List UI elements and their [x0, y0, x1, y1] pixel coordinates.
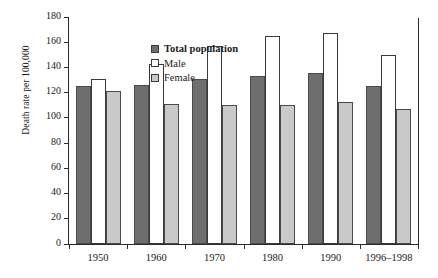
y-axis-tick-label: 0 — [56, 237, 61, 248]
y-axis-tick-label: 140 — [46, 60, 61, 71]
bar-female — [164, 104, 179, 244]
bar-female — [222, 105, 237, 244]
x-axis-tick-mark — [418, 244, 419, 249]
x-axis-tick-mark — [360, 244, 361, 249]
x-axis-tick-mark — [302, 244, 303, 249]
bar-male — [149, 64, 164, 244]
bar-female — [106, 91, 121, 244]
x-axis-tick-mark — [244, 244, 245, 249]
legend-label-total-population: Total population — [164, 43, 238, 54]
bar-group: 1990 — [302, 18, 360, 244]
bar-female — [280, 105, 295, 244]
bar-total — [250, 76, 265, 244]
x-axis-label: 1990 — [320, 252, 341, 263]
y-axis-tick-label: 100 — [46, 110, 61, 121]
bar-male — [91, 79, 106, 244]
x-axis-tick-mark — [69, 244, 70, 249]
y-axis-tick-label: 80 — [51, 136, 61, 147]
legend-swatch-total-population — [151, 45, 159, 53]
bar-male — [265, 36, 280, 244]
y-axis-tick-label: 20 — [51, 211, 61, 222]
bar-group: 1950 — [69, 18, 127, 244]
x-axis-label: 1960 — [146, 252, 167, 263]
bar-group: 1980 — [244, 18, 302, 244]
x-axis-label: 1996–1998 — [365, 252, 412, 263]
legend-item-female: Female — [151, 72, 238, 83]
bar-chart: Death rate per 100,000 02040608010012014… — [0, 0, 438, 278]
bar-total — [308, 73, 323, 245]
bar-group: 1996–1998 — [360, 18, 418, 244]
chart-legend: Total population Male Female — [151, 43, 238, 83]
x-axis-label: 1950 — [88, 252, 109, 263]
legend-swatch-male — [151, 59, 159, 67]
y-axis-tick-label: 160 — [46, 35, 61, 46]
y-axis-title: Death rate per 100,000 — [21, 10, 31, 170]
legend-label-female: Female — [164, 72, 195, 83]
bar-male — [323, 33, 338, 244]
legend-swatch-female — [151, 74, 159, 82]
x-axis-label: 1980 — [262, 252, 283, 263]
x-axis-tick-mark — [185, 244, 186, 249]
x-axis-tick-mark — [127, 244, 128, 249]
bar-total — [76, 86, 91, 244]
x-axis-label: 1970 — [204, 252, 225, 263]
bar-total — [366, 86, 381, 244]
bar-total — [192, 79, 207, 244]
y-axis-tick-label: 180 — [46, 10, 61, 21]
y-axis-tick-label: 120 — [46, 85, 61, 96]
legend-item-total-population: Total population — [151, 43, 238, 54]
y-axis-tick-label: 60 — [51, 161, 61, 172]
y-axis-tick-label: 40 — [51, 186, 61, 197]
bar-male — [381, 55, 396, 244]
bar-female — [396, 109, 411, 244]
bar-total — [134, 85, 149, 244]
bar-female — [338, 102, 353, 245]
legend-item-male: Male — [151, 58, 238, 69]
bar-groups: 195019601970198019901996–1998 — [69, 18, 418, 244]
plot-area: 020406080100120140160180 195019601970198… — [68, 18, 419, 245]
legend-label-male: Male — [164, 58, 186, 69]
